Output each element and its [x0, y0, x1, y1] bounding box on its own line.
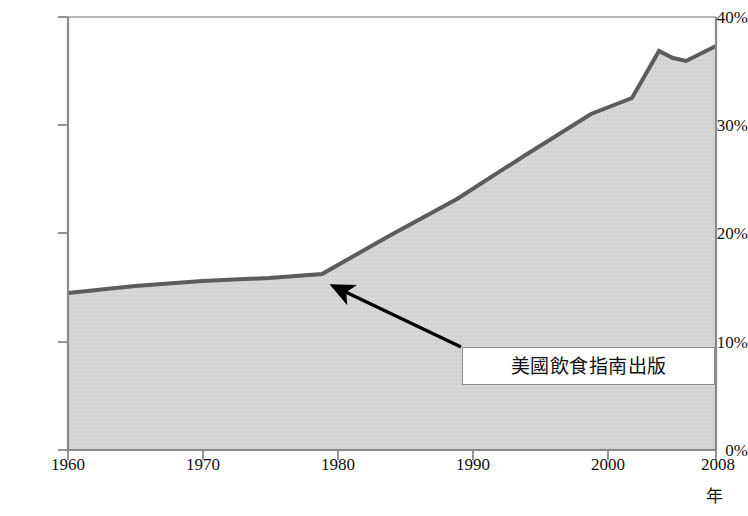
- y-tick-label-40: 40%: [692, 9, 748, 26]
- x-tick-label-1960: 1960: [33, 456, 103, 474]
- annotation-callout-label: 美國飲食指南出版: [511, 356, 667, 376]
- series-area: [68, 46, 716, 450]
- x-tick-label-2000: 2000: [573, 456, 643, 474]
- y-axis-ticks: [58, 17, 68, 450]
- x-tick-label-2008: 2008: [683, 456, 748, 474]
- chart-container: 40% 30% 20% 10% 0% 1960 1970 1980 1990 2…: [0, 0, 748, 516]
- y-tick-label-30: 30%: [692, 117, 748, 134]
- x-tick-label-1980: 1980: [303, 456, 373, 474]
- area-chart-plot: [0, 0, 748, 516]
- x-tick-label-1990: 1990: [438, 456, 508, 474]
- y-tick-label-20: 20%: [692, 225, 748, 242]
- x-axis-title: 年: [706, 487, 723, 505]
- annotation-callout-box: 美國飲食指南出版: [462, 347, 715, 385]
- x-tick-label-1970: 1970: [168, 456, 238, 474]
